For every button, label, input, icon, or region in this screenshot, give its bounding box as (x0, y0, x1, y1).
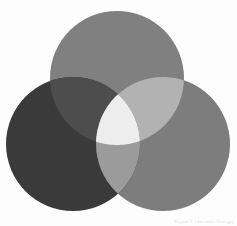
venn-diagram-svg (0, 0, 237, 226)
watermark-caption: Figure 1 | ba-venn-3set.jpg (175, 219, 234, 224)
venn-diagram-figure: Figure 1 | ba-venn-3set.jpg (0, 0, 237, 226)
